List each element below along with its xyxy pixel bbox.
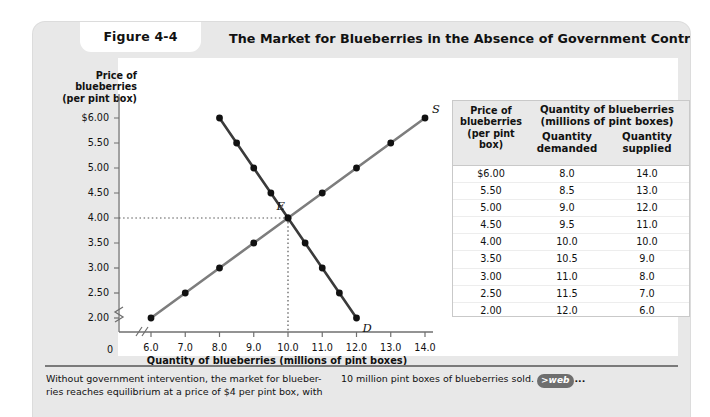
caption-left: Without government intervention, the mar… <box>46 372 331 398</box>
data-point-marker <box>302 240 309 247</box>
table-cell-quantity-demanded: 11.5 <box>527 288 607 299</box>
price-header-line-3: (per pint box) <box>455 128 527 151</box>
data-point-marker <box>319 190 326 197</box>
table-row: 3.0011.08.0 <box>453 269 689 286</box>
x-axis-tick-label: 9.0 <box>239 342 269 353</box>
data-point-marker <box>387 140 394 147</box>
table-header-price: Price of blueberries (per pint box) <box>455 105 527 151</box>
table-header-quantity-demanded: Quantity demanded <box>527 131 607 154</box>
caption-divider <box>45 365 678 367</box>
table-row: 2.5011.57.0 <box>453 286 689 303</box>
table-header-quantity-group: Quantity of blueberries (millions of pin… <box>527 104 687 128</box>
table-row: 4.509.511.0 <box>453 217 689 234</box>
quantity-group-line-1: Quantity of blueberries <box>527 104 687 116</box>
table-cell-price: 4.00 <box>455 236 527 247</box>
table-cell-price: 2.50 <box>455 288 527 299</box>
qs-header-line-2: supplied <box>607 143 687 155</box>
data-point-marker <box>285 215 292 222</box>
table-cell-quantity-supplied: 11.0 <box>607 219 687 230</box>
table-cell-price: 5.00 <box>455 202 527 213</box>
table-cell-quantity-supplied: 9.0 <box>607 253 687 264</box>
y-axis-break-mark <box>115 307 123 322</box>
table-cell-quantity-demanded: 8.5 <box>527 185 607 196</box>
data-point-marker <box>353 315 360 322</box>
table-cell-quantity-demanded: 12.0 <box>527 305 607 316</box>
y-axis-tick-label: 2.00 <box>51 312 109 323</box>
price-header-line-2: blueberries <box>455 116 527 127</box>
table-cell-quantity-supplied: 10.0 <box>607 236 687 247</box>
table-body: $6.008.014.05.508.513.05.009.012.04.509.… <box>453 166 689 319</box>
table-cell-quantity-demanded: 9.5 <box>527 219 607 230</box>
x-axis-tick-label: 13.0 <box>376 342 406 353</box>
data-point-marker <box>148 315 155 322</box>
data-point-marker <box>353 165 360 172</box>
data-point-marker <box>216 265 223 272</box>
table-cell-quantity-demanded: 10.5 <box>527 253 607 264</box>
figure-card: Figure 4-4 The Market for Blueberries in… <box>33 22 690 417</box>
data-point-marker <box>216 115 223 122</box>
table-row: 3.5010.59.0 <box>453 251 689 268</box>
table-cell-price: 2.00 <box>455 305 527 316</box>
x-axis-tick-label: 8.0 <box>205 342 235 353</box>
qd-header-line-1: Quantity <box>527 131 607 143</box>
y-axis-tick-label: $6.00 <box>51 112 109 123</box>
table-row: 2.0012.06.0 <box>453 303 689 319</box>
table-cell-price: 5.50 <box>455 185 527 196</box>
y-axis-tick-label: 5.00 <box>51 162 109 173</box>
table-cell-price: 4.50 <box>455 219 527 230</box>
web-badge-ellipsis: ... <box>574 373 585 384</box>
data-point-marker <box>250 240 257 247</box>
caption-right: 10 million pint boxes of blueberries sol… <box>341 372 671 388</box>
supply-curve-label: S <box>432 102 440 116</box>
y-axis-tick-label: 5.50 <box>51 137 109 148</box>
table-cell-quantity-supplied: 8.0 <box>607 271 687 282</box>
x-axis-tick-label: 12.0 <box>342 342 372 353</box>
table-cell-quantity-demanded: 10.0 <box>527 236 607 247</box>
data-point-marker <box>233 140 240 147</box>
x-axis-tick-label: 6.0 <box>136 342 166 353</box>
y-axis-tick-label: 4.50 <box>51 187 109 198</box>
x-axis-tick-label: 7.0 <box>170 342 200 353</box>
table-row: 5.508.513.0 <box>453 183 689 200</box>
table-row: $6.008.014.0 <box>453 166 689 183</box>
web-link-badge[interactable]: >web <box>537 374 574 388</box>
table-header-bottom: Price of blueberries (per pint box) Quan… <box>453 129 689 165</box>
data-point-marker <box>319 265 326 272</box>
table-cell-quantity-supplied: 7.0 <box>607 288 687 299</box>
table-cell-quantity-demanded: 11.0 <box>527 271 607 282</box>
data-point-marker <box>422 115 429 122</box>
table-cell-quantity-demanded: 8.0 <box>527 168 607 179</box>
table-cell-quantity-supplied: 6.0 <box>607 305 687 316</box>
x-axis-tick-label: 14.0 <box>410 342 440 353</box>
supply-demand-table: Quantity of blueberries (millions of pin… <box>452 100 690 317</box>
data-point-marker <box>250 165 257 172</box>
y-axis-tick-label: 4.00 <box>51 212 109 223</box>
equilibrium-label: E <box>276 199 286 213</box>
table-row: 5.009.012.0 <box>453 200 689 217</box>
table-cell-quantity-demanded: 9.0 <box>527 202 607 213</box>
table-cell-price: $6.00 <box>455 168 527 179</box>
caption-right-text: 10 million pint boxes of blueberries sol… <box>341 373 534 384</box>
y-axis-tick-label: 3.00 <box>51 262 109 273</box>
table-cell-quantity-supplied: 12.0 <box>607 202 687 213</box>
price-header-line-1: Price of <box>455 105 527 116</box>
data-point-marker <box>267 190 274 197</box>
y-axis-tick-label: 2.50 <box>51 287 109 298</box>
qs-header-line-1: Quantity <box>607 131 687 143</box>
quantity-group-line-2: (millions of pint boxes) <box>527 116 687 128</box>
x-axis-tick-label: 11.0 <box>307 342 337 353</box>
y-axis-tick-label: 3.50 <box>51 237 109 248</box>
axis-origin-label: 0 <box>107 344 113 355</box>
table-cell-quantity-supplied: 14.0 <box>607 168 687 179</box>
table-header: Quantity of blueberries (millions of pin… <box>453 101 689 166</box>
table-cell-price: 3.00 <box>455 271 527 282</box>
qd-header-line-2: demanded <box>527 143 607 155</box>
table-header-quantity-supplied: Quantity supplied <box>607 131 687 154</box>
data-point-marker <box>182 290 189 297</box>
demand-curve-label: D <box>362 321 372 335</box>
table-row: 4.0010.010.0 <box>453 234 689 251</box>
table-cell-price: 3.50 <box>455 253 527 264</box>
data-point-marker <box>336 290 343 297</box>
x-axis-tick-label: 10.0 <box>273 342 303 353</box>
table-cell-quantity-supplied: 13.0 <box>607 185 687 196</box>
